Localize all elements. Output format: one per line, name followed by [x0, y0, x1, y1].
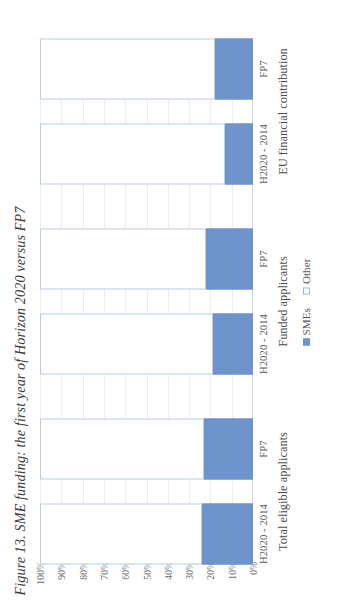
plot-area: 0%10%20%30%40%50%60%70%80%90%100% H2020 …: [40, 0, 295, 603]
gridline: [83, 45, 84, 557]
group-axis-label: Funded applicants: [276, 256, 291, 347]
bar-stack: [40, 418, 253, 479]
gridline: [125, 45, 126, 557]
gridline: [168, 45, 169, 557]
legend-item[interactable]: Other: [300, 258, 312, 293]
bar-segment-other[interactable]: [40, 418, 204, 479]
gridline: [147, 45, 148, 557]
bar-column[interactable]: [40, 503, 253, 564]
bar-segment-other[interactable]: [40, 503, 202, 564]
bar-stack: [40, 313, 253, 374]
legend-item[interactable]: SMEs: [300, 308, 312, 345]
bar-stack: [40, 38, 253, 99]
bar-segment-other[interactable]: [40, 228, 206, 289]
bar-segment-smes[interactable]: [204, 418, 253, 479]
bar-segment-smes[interactable]: [225, 123, 253, 184]
bar-segment-smes[interactable]: [213, 313, 253, 374]
bar-segment-other[interactable]: [40, 123, 225, 184]
filled-square-icon: [303, 338, 310, 345]
category-tick-label: FP7: [258, 250, 269, 267]
legend-label: SMEs: [300, 308, 312, 335]
outlined-square-icon: [303, 287, 310, 294]
gridline: [210, 45, 211, 557]
figure-container: Figure 13. SME funding: the first year o…: [0, 0, 342, 603]
bar-stack: [40, 503, 253, 564]
axis-baseline: [252, 45, 253, 557]
category-tick-label: H2020 - 2014: [258, 123, 269, 183]
gridline: [189, 45, 190, 557]
bar-stack: [40, 123, 253, 184]
legend-label: Other: [300, 258, 312, 283]
bar-stack: [40, 228, 253, 289]
group-axis-label: Total eligible applicants: [276, 432, 291, 551]
gridline: [232, 45, 233, 557]
bar-column[interactable]: [40, 418, 253, 479]
category-tick-labels: H2020 - 2014FP7H2020 - 2014FP7H2020 - 20…: [258, 45, 276, 557]
group-axis-labels: Total eligible applicantsFunded applican…: [276, 45, 296, 557]
category-tick-label: H2020 - 2014: [258, 313, 269, 373]
group-axis-label: EU financial contribution: [276, 48, 291, 175]
category-tick-label: H2020 - 2014: [258, 503, 269, 563]
bars-plot-region: [40, 45, 253, 557]
bar-column[interactable]: [40, 123, 253, 184]
bar-column[interactable]: [40, 38, 253, 99]
bar-segment-smes[interactable]: [202, 503, 253, 564]
bar-segment-smes[interactable]: [206, 228, 253, 289]
chart-legend: SMEsOther: [300, 0, 312, 603]
bar-column[interactable]: [40, 313, 253, 374]
gridline: [104, 45, 105, 557]
bar-segment-smes[interactable]: [215, 38, 253, 99]
category-tick-label: FP7: [258, 60, 269, 77]
gridline: [61, 45, 62, 557]
bar-column[interactable]: [40, 228, 253, 289]
bar-segment-other[interactable]: [40, 38, 215, 99]
figure-caption: Figure 13. SME funding: the first year o…: [12, 206, 29, 595]
bar-segment-other[interactable]: [40, 313, 213, 374]
category-tick-label: FP7: [258, 440, 269, 457]
gridline: [40, 45, 41, 557]
